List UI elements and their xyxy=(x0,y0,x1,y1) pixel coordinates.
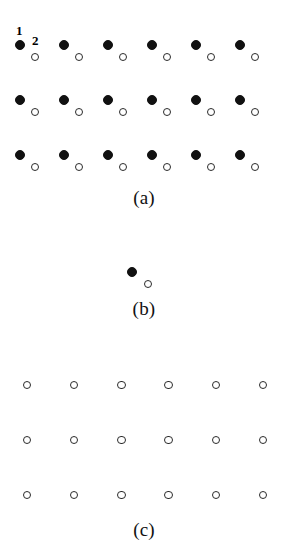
open-circle-marker xyxy=(259,381,267,389)
open-circle-marker xyxy=(212,381,220,389)
open-circle-marker xyxy=(23,381,31,389)
open-circle-marker xyxy=(70,491,78,499)
open-circle-marker xyxy=(164,381,172,389)
open-circle-marker xyxy=(117,381,125,389)
open-circle-marker xyxy=(70,436,78,444)
open-circle-marker xyxy=(259,491,267,499)
panel-c: (c) xyxy=(0,0,288,560)
open-circle-marker xyxy=(212,491,220,499)
open-circle-marker xyxy=(70,381,78,389)
open-circle-marker xyxy=(23,491,31,499)
open-circle-marker xyxy=(164,491,172,499)
open-circle-marker xyxy=(259,436,267,444)
figure-canvas: 12(a)(b)(c) xyxy=(0,0,288,560)
open-circle-marker xyxy=(117,436,125,444)
open-circle-marker xyxy=(164,436,172,444)
open-circle-marker xyxy=(23,436,31,444)
open-circle-marker xyxy=(117,491,125,499)
open-circle-marker xyxy=(212,436,220,444)
panel-caption-c: (c) xyxy=(0,520,288,539)
